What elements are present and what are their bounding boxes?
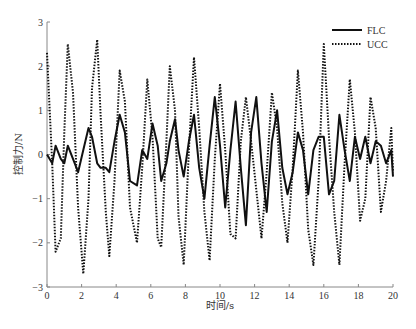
legend: FLCUCC bbox=[332, 25, 388, 50]
x-tick-label: 2 bbox=[79, 290, 84, 301]
series-flc bbox=[47, 97, 393, 225]
y-tick-label: −2 bbox=[32, 237, 43, 248]
legend-label-ucc: UCC bbox=[367, 39, 388, 50]
x-axis-label: 时间/s bbox=[206, 299, 235, 311]
x-tick-label: 18 bbox=[353, 290, 363, 301]
axes: 02468101214161820−3−2−10123 bbox=[32, 17, 398, 302]
legend-label-flc: FLC bbox=[367, 25, 386, 36]
x-tick-label: 4 bbox=[114, 290, 119, 301]
y-tick-label: 2 bbox=[38, 61, 43, 72]
x-tick-label: 20 bbox=[388, 290, 398, 301]
chart: 02468101214161820−3−2−10123 FLCUCC 时间/s … bbox=[0, 0, 416, 329]
y-tick-label: −1 bbox=[32, 193, 43, 204]
x-tick-label: 0 bbox=[45, 290, 50, 301]
x-tick-label: 6 bbox=[148, 290, 153, 301]
y-tick-label: −3 bbox=[32, 282, 43, 293]
y-tick-label: 0 bbox=[38, 149, 43, 160]
y-tick-label: 3 bbox=[38, 17, 43, 28]
x-tick-label: 12 bbox=[250, 290, 260, 301]
x-tick-label: 14 bbox=[284, 290, 294, 301]
y-axis-label: 控制力/N bbox=[12, 133, 24, 175]
x-tick-label: 16 bbox=[319, 290, 329, 301]
y-tick-label: 1 bbox=[38, 105, 43, 116]
x-tick-label: 8 bbox=[183, 290, 188, 301]
series-lines bbox=[47, 40, 393, 274]
